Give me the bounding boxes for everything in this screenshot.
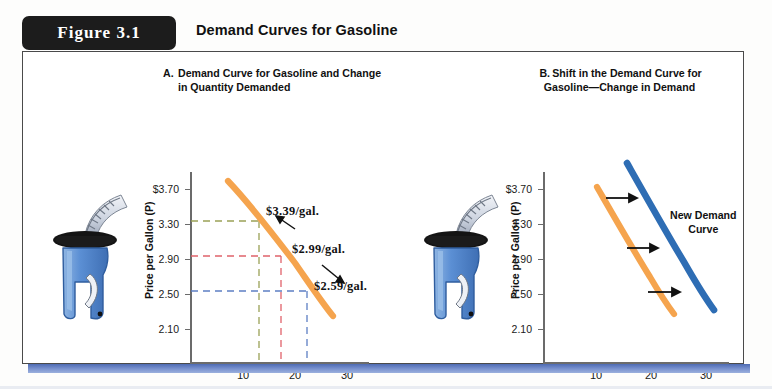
annotation-price-259: $2.59/gal.	[314, 279, 367, 294]
figure-number-badge: Figure 3.1	[22, 16, 176, 50]
new-demand-curve-label-line2: Curve	[688, 223, 718, 235]
figure-title: Demand Curves for Gasoline	[196, 22, 398, 38]
new-demand-curve-label: New Demand Curve	[670, 208, 737, 236]
panel-a-plot	[23, 52, 384, 365]
annotation-price-299: $2.99/gal.	[292, 242, 345, 257]
figure-frame: A.Demand Curve for Gasoline and Change i…	[22, 51, 744, 364]
original-demand-curve-b	[597, 187, 674, 314]
annotation-price-339: $3.39/gal.	[266, 204, 319, 219]
new-demand-curve-b	[627, 163, 714, 310]
figure-number-text: Figure 3.1	[57, 23, 140, 43]
panel-b: B.Shift in the Demand Curve for Gasoline…	[384, 52, 745, 365]
new-demand-curve-label-line1: New Demand	[670, 209, 737, 221]
panel-a: A.Demand Curve for Gasoline and Change i…	[23, 52, 384, 365]
frame-drop-shadow	[28, 364, 750, 373]
figure-page: Figure 3.1 Demand Curves for Gasoline A.…	[0, 0, 772, 389]
